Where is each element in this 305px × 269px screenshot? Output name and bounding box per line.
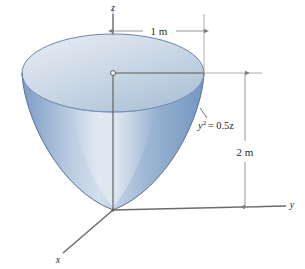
origin-point [111,208,114,211]
paraboloid-figure: 1 m 2 m y2= 0.5z z y x [0,0,305,269]
equation-label: y2= 0.5z [197,119,234,131]
z-axis-label: z [110,2,115,13]
equation-callout: y2= 0.5z [197,108,234,131]
y-axis-label: y [289,199,295,210]
equation-rest: = 0.5z [208,120,235,131]
equation-leader-line [200,108,207,118]
radius-dim-label: 1 m [151,25,168,37]
top-center-marker [111,71,116,76]
x-axis [63,210,113,253]
height-dim-label: 2 m [237,146,254,158]
height-dimension: 2 m [199,73,262,207]
x-axis-label: x [55,254,61,265]
equation-exponent: 2 [203,119,207,127]
figure-canvas: 1 m 2 m y2= 0.5z z y x [0,0,305,269]
